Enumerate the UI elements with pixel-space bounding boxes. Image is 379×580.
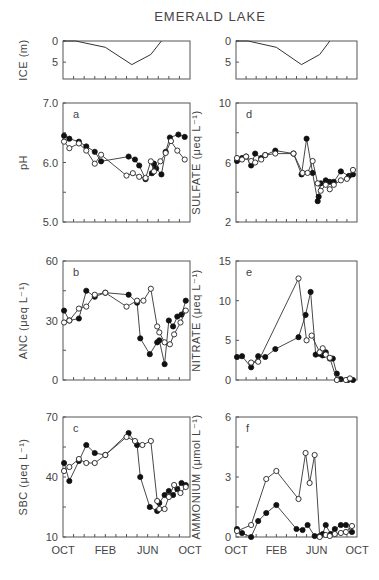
data-point-open	[178, 320, 183, 325]
data-point-open	[67, 146, 72, 151]
data-point-filled	[249, 534, 254, 539]
y-tick-label: 2	[225, 216, 231, 228]
y-tick-label: 3	[225, 471, 231, 483]
data-point-open	[124, 434, 129, 439]
y-axis-label: NITRATE (μeq L⁻¹)	[190, 269, 202, 372]
data-point-open	[343, 529, 348, 534]
panel-ice-left: 05ICE (m)	[17, 35, 190, 81]
data-point-filled	[256, 518, 261, 523]
data-point-filled	[132, 157, 137, 162]
data-point-open	[155, 324, 160, 329]
data-point-filled	[176, 132, 181, 137]
data-point-open	[92, 161, 97, 166]
x-tick-label: OCT	[224, 544, 248, 556]
data-point-open	[305, 170, 310, 175]
data-point-open	[162, 340, 167, 345]
y-axis-label: ANC (μeq L⁻¹)	[17, 282, 29, 360]
data-point-filled	[126, 154, 131, 159]
data-point-filled	[263, 354, 268, 359]
data-point-open	[67, 318, 72, 323]
y-tick-label: 5	[52, 56, 58, 68]
y-tick-label: 10	[46, 531, 58, 543]
data-point-open	[243, 154, 248, 159]
data-point-open	[318, 188, 323, 193]
y-axis-label: AMMONIUM (μmol L⁻¹)	[190, 414, 202, 539]
data-point-open	[61, 468, 66, 473]
data-point-open	[182, 157, 187, 162]
series-line-ice thickness	[236, 41, 330, 65]
y-tick-label: 40	[46, 471, 58, 483]
data-point-filled	[157, 338, 162, 343]
data-point-filled	[343, 522, 348, 527]
data-point-open	[259, 157, 264, 162]
data-point-filled	[338, 169, 343, 174]
data-point-open	[76, 141, 81, 146]
data-point-open	[296, 496, 301, 501]
y-tick-label: 60	[46, 255, 58, 267]
data-point-filled	[159, 172, 164, 177]
data-point-open	[327, 187, 332, 192]
y-tick-label: 6	[225, 157, 231, 169]
data-point-open	[168, 138, 173, 143]
data-point-open	[162, 506, 167, 511]
data-point-open	[84, 148, 89, 153]
plot-frame	[63, 41, 190, 79]
data-point-open	[249, 360, 254, 365]
panel-e: 051015NITRATE (μeq L⁻¹)e	[190, 255, 357, 386]
series-line-open	[237, 453, 352, 537]
data-point-filled	[76, 316, 81, 321]
y-axis-label: SBC (μeq L⁻¹)	[17, 439, 29, 516]
panel-ice-right: 05	[225, 35, 357, 79]
data-point-open	[349, 523, 354, 528]
y-tick-label: 5.0	[43, 216, 58, 228]
panel-letter: a	[73, 108, 80, 120]
data-point-open	[124, 173, 129, 178]
data-point-filled	[273, 346, 278, 351]
data-point-open	[331, 182, 336, 187]
panel-letter: b	[73, 266, 79, 278]
y-tick-label: 30	[46, 315, 58, 327]
y-tick-label: 6.0	[43, 157, 58, 169]
panel-letter: f	[246, 422, 250, 434]
data-point-open	[157, 330, 162, 335]
data-point-filled	[239, 530, 244, 535]
data-point-open	[99, 152, 104, 157]
data-point-open	[148, 159, 153, 164]
data-point-open	[304, 338, 309, 343]
y-tick-label: 0	[225, 374, 231, 386]
data-point-open	[309, 333, 314, 338]
data-point-open	[157, 506, 162, 511]
data-point-filled	[126, 292, 131, 297]
data-point-open	[103, 290, 108, 295]
data-point-open	[320, 346, 325, 351]
data-point-open	[350, 167, 355, 172]
y-tick-label: 6	[225, 411, 231, 423]
data-point-open	[141, 298, 146, 303]
data-point-filled	[323, 522, 328, 527]
data-point-filled	[61, 133, 66, 138]
y-tick-label: 10	[219, 295, 231, 307]
data-point-open	[317, 534, 322, 539]
data-point-open	[307, 480, 312, 485]
panel-f: 036AMMONIUM (μmol L⁻¹)fOCTFEBJUNOCT	[190, 411, 369, 556]
panel-letter: c	[73, 422, 79, 434]
data-point-open	[143, 175, 148, 180]
data-point-filled	[253, 151, 258, 156]
x-tick-label: OCT	[51, 544, 75, 556]
data-point-open	[148, 286, 153, 291]
panel-d: 2610SULFATE (μeq L⁻¹)d	[190, 97, 357, 228]
plot-frame	[63, 103, 190, 222]
y-tick-label: 5	[225, 56, 231, 68]
data-point-filled	[234, 354, 239, 359]
data-point-filled	[61, 460, 66, 465]
data-point-open	[137, 174, 142, 179]
series-line-ice thickness	[63, 41, 161, 65]
data-point-filled	[162, 362, 167, 367]
data-point-open	[263, 152, 268, 157]
data-point-filled	[239, 354, 244, 359]
data-point-open	[310, 158, 315, 163]
data-point-open	[67, 464, 72, 469]
data-point-filled	[92, 450, 97, 455]
series-line-filled	[64, 291, 186, 364]
data-point-open	[234, 528, 239, 533]
